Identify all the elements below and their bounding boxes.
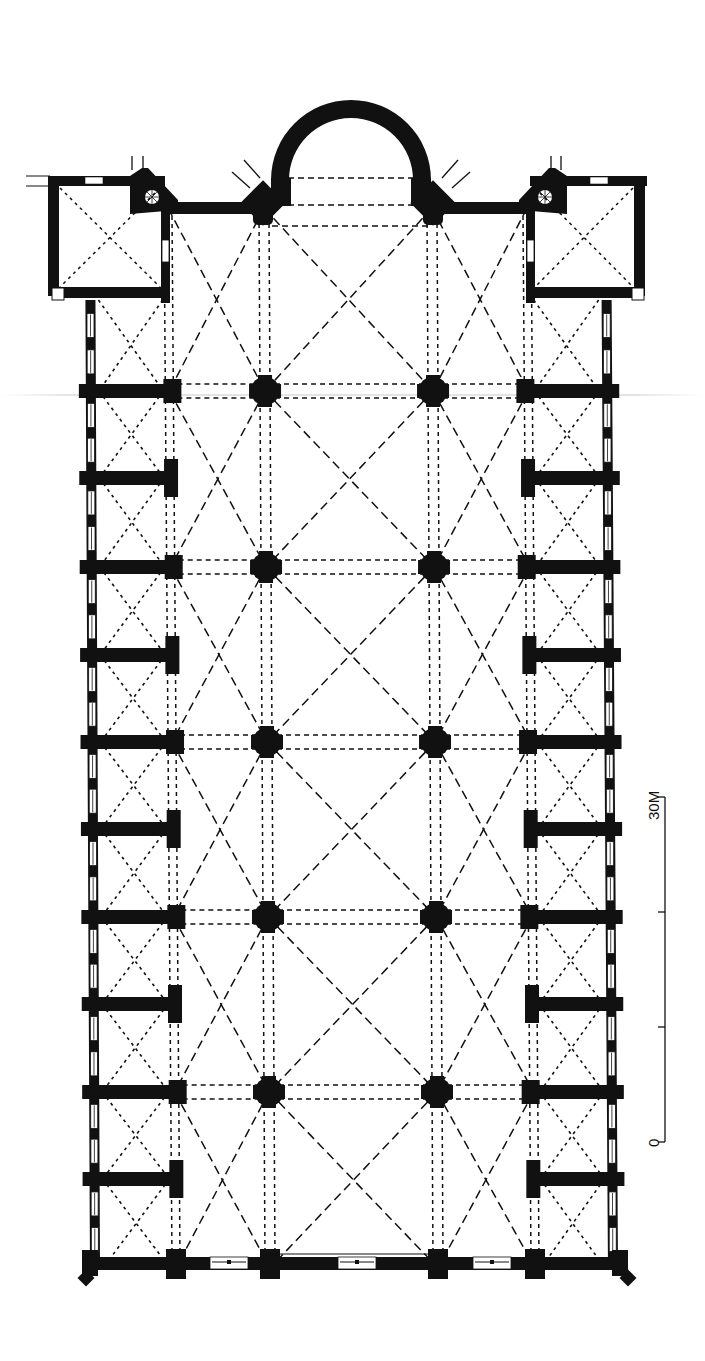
aisle-pier bbox=[521, 459, 535, 497]
buttress-wall bbox=[81, 822, 173, 836]
buttress-wall bbox=[81, 735, 173, 749]
buttress-wall bbox=[524, 384, 619, 398]
buttress-line bbox=[232, 172, 250, 188]
buttress-wall bbox=[82, 1085, 175, 1099]
tower-right bbox=[519, 156, 647, 300]
facade-pier bbox=[525, 1249, 545, 1279]
aisle-pier bbox=[169, 1160, 183, 1198]
aisle-pier bbox=[519, 730, 537, 754]
scale-bar bbox=[658, 797, 665, 1142]
buttress-wall bbox=[79, 384, 170, 398]
aisle-pier bbox=[520, 905, 538, 929]
buttress-wall bbox=[530, 1085, 624, 1099]
nave-vault-diagonal bbox=[266, 391, 433, 567]
aisle-pier bbox=[165, 555, 183, 579]
buttress-line bbox=[244, 160, 260, 178]
buttress-wall bbox=[526, 560, 621, 574]
corner-towers bbox=[26, 156, 647, 300]
aisle-pier bbox=[169, 1080, 187, 1104]
aisle-pier bbox=[167, 810, 181, 848]
buttress-wall bbox=[80, 560, 171, 574]
aisle-pier bbox=[164, 459, 178, 497]
aisle-pier bbox=[163, 379, 181, 403]
walls-and-piers bbox=[78, 178, 637, 1286]
window bbox=[162, 240, 169, 262]
buttress-line bbox=[452, 172, 470, 188]
aisle-pier bbox=[518, 555, 536, 579]
facade-pier bbox=[166, 1249, 186, 1279]
window bbox=[85, 177, 103, 184]
aisle-pier bbox=[522, 1080, 540, 1104]
aisle-pier bbox=[168, 985, 182, 1023]
aisle-pier bbox=[524, 810, 538, 848]
buttress-wall bbox=[527, 735, 621, 749]
floor-plan bbox=[0, 0, 705, 1361]
buttress-wall bbox=[525, 471, 620, 485]
window bbox=[590, 177, 608, 184]
apse-wall bbox=[271, 100, 431, 180]
aisle-pier bbox=[167, 905, 185, 929]
aisle-pier bbox=[516, 379, 534, 403]
window bbox=[527, 240, 534, 262]
buttress-wall bbox=[83, 1172, 176, 1186]
apse bbox=[232, 100, 470, 226]
corner-pier bbox=[612, 1250, 628, 1276]
buttress-wall bbox=[82, 997, 174, 1011]
aisle-pier bbox=[522, 636, 536, 674]
aisle-pier bbox=[525, 985, 539, 1023]
buttress-wall bbox=[79, 471, 170, 485]
buttress-wall bbox=[530, 1172, 624, 1186]
vault-rib-lines bbox=[98, 178, 605, 1268]
scale-label-end: 30M bbox=[645, 791, 662, 820]
buttress-wall bbox=[80, 648, 171, 662]
aisle-pier bbox=[526, 1160, 540, 1198]
corner-pier bbox=[82, 1250, 98, 1276]
buttress-wall bbox=[528, 822, 622, 836]
buttress-wall bbox=[81, 910, 173, 924]
aisle-pier bbox=[165, 636, 179, 674]
buttress-line bbox=[442, 160, 458, 178]
buttress-wall bbox=[529, 997, 623, 1011]
buttress-wall bbox=[526, 648, 621, 662]
aisle-pier bbox=[166, 730, 184, 754]
scale-label-start: 0 bbox=[645, 1139, 662, 1147]
facade-pier bbox=[428, 1249, 448, 1279]
facade-pier bbox=[260, 1249, 280, 1279]
nave-vault-diagonal bbox=[270, 1092, 437, 1268]
tower-left bbox=[26, 156, 178, 300]
buttress-wall bbox=[528, 910, 622, 924]
